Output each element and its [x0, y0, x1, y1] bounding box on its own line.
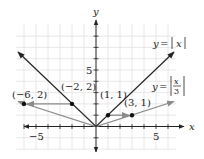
svg-text:=: = — [159, 81, 167, 92]
svg-text:y: y — [151, 81, 158, 92]
point-label-1-1: (1, 1) — [100, 89, 127, 100]
point-neg6-2 — [22, 102, 26, 106]
absolute-value-graph: y x −5 5 5 (−6, 2) (−2, 2) (1, 1) (3, 1)… — [0, 0, 204, 159]
svg-text:3: 3 — [174, 87, 179, 96]
point-label-neg6-2: (−6, 2) — [12, 89, 47, 100]
point-label-3-1: (3, 1) — [124, 97, 151, 108]
tick-label-y-5: 5 — [86, 65, 92, 76]
point-neg2-2 — [70, 102, 74, 106]
svg-text:x: x — [174, 77, 179, 86]
tick-label-x-neg5: −5 — [29, 131, 44, 142]
x-axis-label: x — [189, 121, 195, 132]
tick-label-x-5: 5 — [153, 131, 159, 142]
svg-text:x: x — [176, 38, 182, 49]
point-label-neg2-2: (−2, 2) — [61, 81, 96, 92]
y-axis-label: y — [92, 6, 99, 17]
point-1-1 — [106, 113, 110, 117]
svg-text:=: = — [160, 38, 168, 49]
point-3-1 — [130, 113, 134, 117]
svg-text:y: y — [152, 38, 159, 49]
